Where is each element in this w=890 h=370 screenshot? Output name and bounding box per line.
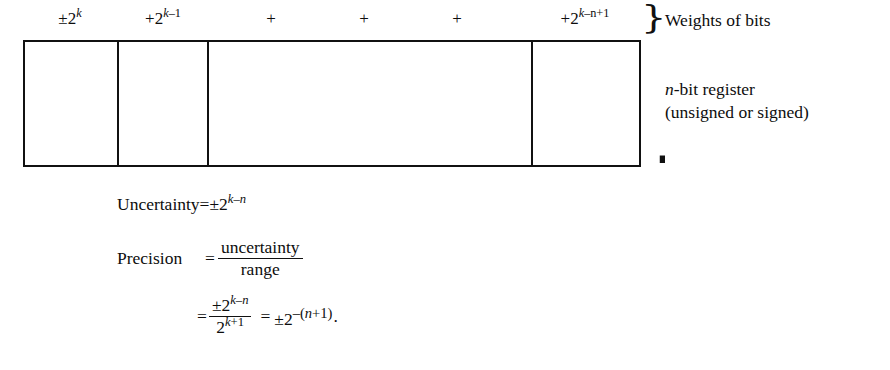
precision-denominator: range <box>238 259 283 279</box>
n-variable: n <box>665 79 674 99</box>
precision-equation: Precision = uncertainty range <box>117 238 303 279</box>
bit-weight-msb-minus-1-exponent: k–1 <box>163 6 181 20</box>
final-precision-equation: = ±2k–n 2k+1 = ±2–(n+1) . <box>197 296 338 337</box>
register-cell-divider-1 <box>117 40 119 167</box>
final-result-exponent: –(n+1) <box>293 305 333 321</box>
final-numerator: ±2k–n <box>209 296 252 317</box>
final-denominator: 2k+1 <box>213 317 247 337</box>
bit-weight-plus-2: + <box>359 8 369 30</box>
weights-brace-icon: } <box>641 2 663 34</box>
bit-weight-lsb-exponent: k–n+1 <box>579 6 610 20</box>
precision-fraction: uncertainty range <box>218 238 303 279</box>
precision-numerator: uncertainty <box>218 238 303 259</box>
final-fraction: ±2k–n 2k+1 <box>209 296 252 337</box>
final-result: ±2–(n+1) <box>274 302 332 330</box>
bit-weight-msb-base: ±2 <box>58 9 76 28</box>
bit-weight-msb: ±2k <box>58 8 81 30</box>
bit-weight-lsb-base: +2 <box>561 9 579 28</box>
weights-of-bits-caption: Weights of bits <box>665 9 771 31</box>
register-box <box>23 40 641 167</box>
final-numerator-exponent: k–n <box>230 293 248 307</box>
n-bit-register-caption: n-bit register (unsigned or signed) <box>665 78 809 124</box>
register-cell-divider-3 <box>531 40 533 167</box>
bit-weight-lsb: +2k–n+1 <box>561 8 610 30</box>
bit-weight-msb-exponent: k <box>76 6 81 20</box>
uncertainty-value-base: ±2 <box>209 194 227 214</box>
register-cell-divider-2 <box>207 40 209 167</box>
n-bit-register-text: -bit register <box>674 79 755 99</box>
uncertainty-exponent: k–n <box>228 192 246 206</box>
bit-weight-msb-minus-1-base: +2 <box>145 9 163 28</box>
bit-weight-plus-1: + <box>266 8 276 30</box>
final-denominator-exponent: k+1 <box>225 315 244 329</box>
register-brace-icon: } <box>641 34 665 172</box>
bit-weight-plus-3: + <box>452 8 462 30</box>
final-period: . <box>333 305 337 327</box>
precision-label: Precision <box>117 247 205 269</box>
precision-equals: = <box>205 247 215 269</box>
final-equals-1: = <box>197 305 207 327</box>
uncertainty-equation: Uncertainty=±2k–n <box>117 193 246 215</box>
final-equals-2: = <box>260 305 270 327</box>
unsigned-or-signed-line: (unsigned or signed) <box>665 101 809 124</box>
uncertainty-equals: = <box>200 194 210 214</box>
uncertainty-label: Uncertainty <box>117 194 200 214</box>
n-bit-register-line: n-bit register <box>665 78 809 101</box>
bit-weight-msb-minus-1: +2k–1 <box>145 8 181 30</box>
